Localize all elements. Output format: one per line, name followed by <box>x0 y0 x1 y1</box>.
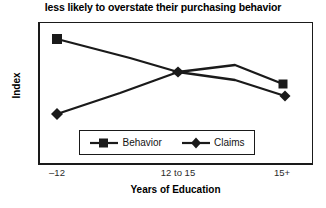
chart-legend: Behavior Claims <box>79 130 255 155</box>
legend-entry-behavior: Behavior <box>89 137 161 149</box>
legend-label-behavior: Behavior <box>122 137 161 148</box>
diamond-marker-icon <box>181 137 211 149</box>
legend-label-claims: Claims <box>214 137 245 148</box>
chart-figure: less likely to overstate their purchasin… <box>0 0 326 208</box>
x-axis-title: Years of Education <box>38 184 313 195</box>
y-axis-title: Index <box>11 56 22 116</box>
x-tick-label-0: –12 <box>31 167 83 178</box>
square-marker-icon <box>89 137 119 149</box>
x-tick-label-2: 15+ <box>258 167 306 178</box>
x-tick-label-1: 12 to 15 <box>148 167 208 178</box>
chart-title: less likely to overstate their purchasin… <box>0 1 326 14</box>
legend-entry-claims: Claims <box>181 137 245 149</box>
